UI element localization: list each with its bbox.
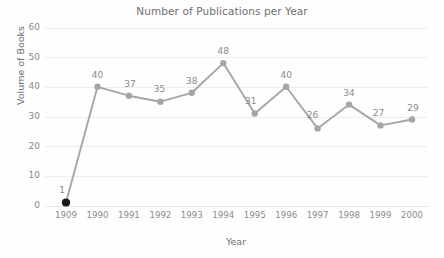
y-tick-label: 20 — [14, 141, 40, 151]
gridline — [45, 176, 428, 177]
data-point-marker — [126, 93, 132, 99]
data-label: 38 — [177, 76, 207, 86]
gridline — [45, 57, 428, 58]
y-tick-label: 60 — [14, 22, 40, 32]
data-point-marker — [157, 99, 163, 105]
chart-title: Number of Publications per Year — [0, 5, 444, 17]
data-label: 48 — [208, 46, 238, 56]
x-axis-title: Year — [40, 236, 432, 247]
data-point-marker — [377, 122, 383, 128]
gridline — [45, 28, 428, 29]
y-tick-label: 40 — [14, 81, 40, 91]
data-label: 1 — [47, 185, 77, 195]
data-label: 29 — [398, 103, 428, 113]
data-label: 26 — [298, 110, 328, 120]
data-label: 40 — [83, 70, 113, 80]
data-label: 37 — [115, 79, 145, 89]
data-point-marker — [220, 60, 226, 66]
y-tick-label: 0 — [14, 200, 40, 210]
y-tick-label: 30 — [14, 111, 40, 121]
y-tick-label: 10 — [14, 170, 40, 180]
data-label: 27 — [364, 108, 394, 118]
data-label: 40 — [271, 70, 301, 80]
gridline — [45, 206, 428, 207]
data-point-marker — [189, 90, 195, 96]
data-point-marker — [346, 101, 352, 107]
data-point-marker — [314, 125, 320, 131]
gridline — [45, 146, 428, 147]
y-tick-label: 50 — [14, 52, 40, 62]
data-label: 34 — [334, 88, 364, 98]
gridline — [45, 87, 428, 88]
x-tick-label: 2000 — [392, 210, 432, 221]
data-label: 35 — [144, 84, 174, 94]
data-label: 31 — [236, 96, 266, 106]
line-chart: Number of Publications per Year Volume o… — [0, 0, 444, 258]
